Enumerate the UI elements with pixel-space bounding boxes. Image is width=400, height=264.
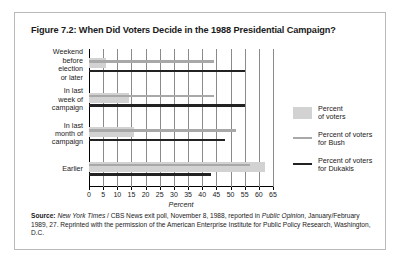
bar-dukakis [89,70,245,73]
bar-bush [89,95,214,98]
tick-label: 45 [212,191,220,198]
tick-label: 30 [170,191,178,198]
tick-label: 35 [184,191,192,198]
tick-label: 25 [156,191,164,198]
bar-bush [89,129,236,132]
tick-label: 40 [198,191,206,198]
source-italic-publicopinion: Public Opinion [262,212,305,219]
legend-item: Percent of voters [293,105,400,122]
bar-bush [89,164,250,167]
tick-label: 20 [142,191,150,198]
tick-label: 15 [128,191,136,198]
legend-marker [293,133,312,139]
chart-legend: Percent of votersPercent of voters for B… [293,105,400,182]
tick-label: 60 [255,191,263,198]
legend-label: Percent of voters [318,105,400,122]
bar-group: In last month of campaign [89,118,273,153]
bar-group: Earlier [89,153,273,188]
category-label: Earlier [62,165,83,173]
source-italic-nyt: New York Times [57,212,105,219]
legend-line-icon [293,137,312,139]
category-label: In last month of campaign [52,122,83,147]
legend-marker [293,107,312,119]
legend-swatch-icon [293,107,312,119]
legend-marker [293,159,312,166]
category-label: In last week of campaign [52,87,83,112]
bar-group: In last week of campaign [89,84,273,119]
legend-item: Percent of voters for Bush [293,131,400,148]
legend-label: Percent of voters for Bush [318,131,400,148]
tick-label: 10 [113,191,121,198]
x-axis-label: Percent [89,200,273,209]
bar-dukakis [89,173,211,176]
figure-frame: Figure 7.2: When Did Voters Decide in th… [14,12,386,250]
legend-line-icon [293,163,312,166]
tick-label: 50 [227,191,235,198]
tick-label: 65 [269,191,277,198]
bar-dukakis [89,104,245,107]
source-label: Source: [31,212,56,219]
bar-group: Weekend before election or later [89,49,273,84]
legend-item: Percent of voters for Dukakis [293,157,400,174]
tick-label: 55 [241,191,249,198]
source-note: Source: New York Times / CBS News exit p… [31,212,373,238]
tick-label: 0 [87,191,91,198]
source-text-1: / CBS News exit poll, November 8, 1988, … [105,212,262,219]
bar-bush [89,60,214,63]
bar-dukakis [89,139,225,142]
chart-plot-area: Weekend before election or laterIn last … [89,49,273,187]
page-title: Figure 7.2: When Did Voters Decide in th… [31,25,336,35]
gridline [273,49,274,187]
x-axis-ticks: 05101520253035404550556065 [89,187,273,199]
category-label: Weekend before election or later [53,48,83,82]
tick-label: 5 [101,191,105,198]
legend-label: Percent of voters for Dukakis [318,157,400,174]
